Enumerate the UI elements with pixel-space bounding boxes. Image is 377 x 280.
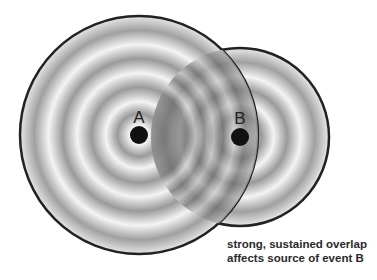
caption-line-1: strong, sustained overlap: [227, 237, 367, 251]
caption: strong, sustained overlap affects source…: [227, 237, 367, 265]
source-b-label: B: [234, 109, 245, 128]
source-a-label: A: [133, 108, 145, 127]
source-a-dot: [130, 126, 148, 144]
source-b-dot: [231, 128, 249, 146]
caption-line-2: affects source of event B: [227, 251, 367, 265]
